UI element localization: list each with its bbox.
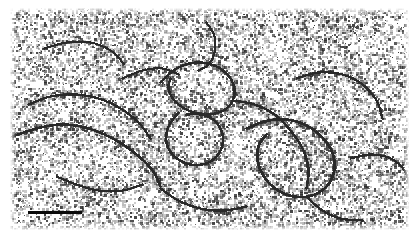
micrograph-figure: Grayscale transmission electron microgra… bbox=[0, 0, 418, 237]
micrograph-image-area bbox=[10, 8, 409, 230]
scale-bar bbox=[28, 211, 82, 214]
micrograph-canvas bbox=[10, 8, 409, 230]
